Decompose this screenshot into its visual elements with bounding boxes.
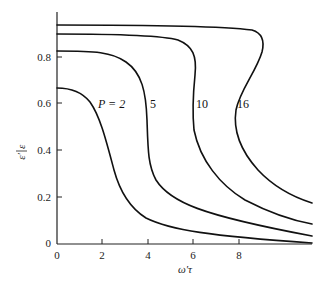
y-axis-label: ε′ ε bbox=[15, 144, 27, 160]
y-ticks bbox=[57, 57, 62, 197]
chart: 0 2 4 6 8 0 0.2 0.4 0.6 0.8 ω′τ ε′ ε P =… bbox=[0, 0, 327, 290]
y-tick-0.2: 0.2 bbox=[37, 191, 51, 203]
x-ticks bbox=[102, 239, 239, 244]
curve-p10 bbox=[57, 34, 312, 224]
curve-label-p16: 16 bbox=[237, 97, 249, 111]
curve-label-p5: 5 bbox=[150, 97, 156, 111]
curve-label-p2: P = 2 bbox=[97, 97, 125, 111]
y-tick-labels: 0 0.2 0.4 0.6 0.8 bbox=[37, 51, 51, 249]
y-tick-0: 0 bbox=[46, 237, 52, 249]
y-axis-label-numerator: ε′ bbox=[15, 152, 27, 159]
y-axis-label-denominator: ε bbox=[15, 144, 27, 149]
y-tick-0.4: 0.4 bbox=[37, 144, 51, 156]
x-tick-4: 4 bbox=[145, 249, 151, 261]
x-tick-8: 8 bbox=[236, 249, 242, 261]
curve-p2 bbox=[57, 88, 312, 243]
curve-label-p10: 10 bbox=[196, 97, 208, 111]
curve-label-p2-text: P = 2 bbox=[97, 97, 125, 111]
x-tick-2: 2 bbox=[99, 249, 105, 261]
x-axis-label: ω′τ bbox=[178, 263, 193, 275]
y-tick-0.8: 0.8 bbox=[37, 51, 51, 63]
curve-p5 bbox=[57, 51, 312, 236]
x-tick-0: 0 bbox=[54, 249, 60, 261]
curves bbox=[57, 25, 312, 243]
y-tick-0.6: 0.6 bbox=[37, 97, 51, 109]
x-tick-labels: 0 2 4 6 8 bbox=[54, 249, 242, 261]
x-tick-6: 6 bbox=[190, 249, 196, 261]
